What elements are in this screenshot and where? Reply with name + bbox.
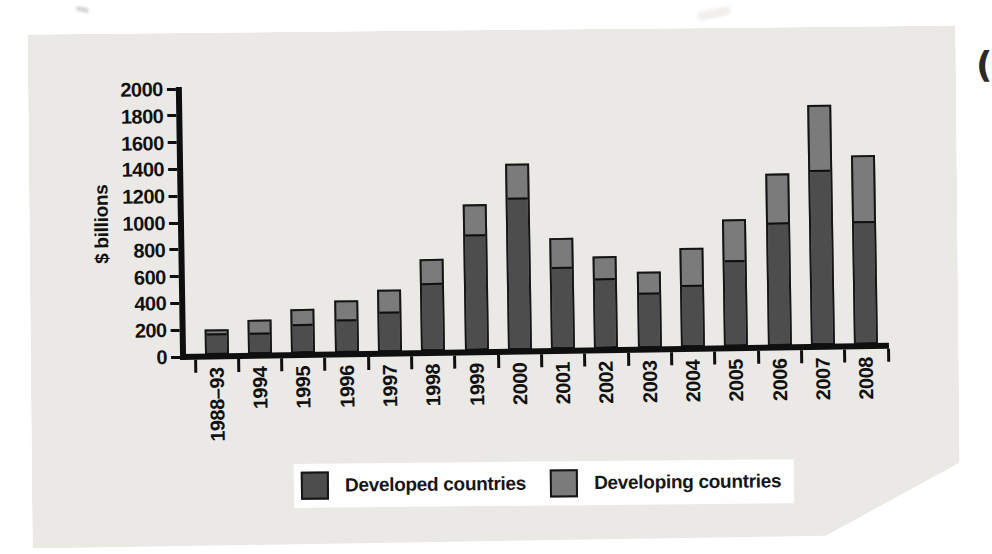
ytick-label-1200: 1200 <box>100 185 164 208</box>
xlabel-text-1999: 1999 <box>466 363 488 406</box>
bar-segment-developed-1996 <box>336 319 356 350</box>
xtick-mark-1 <box>237 359 240 372</box>
ytick-label-1600: 1600 <box>100 132 164 155</box>
legend-swatch-developed <box>301 472 329 500</box>
ytick-mark-1400 <box>168 168 177 171</box>
xtick-mark-8 <box>540 354 543 367</box>
figure-panel: $ billions 20001800160014001200100080060… <box>28 26 961 549</box>
xtick-mark-6 <box>453 356 456 369</box>
bar-1998 <box>420 258 445 351</box>
ytick-mark-1800 <box>167 114 176 117</box>
bar-segment-developed-2007 <box>810 170 833 343</box>
bar-segment-developed-1997 <box>379 311 400 349</box>
bar-segment-developed-2005 <box>725 260 746 345</box>
bar-2003 <box>637 271 662 348</box>
xlabel-text-1994: 1994 <box>250 367 272 410</box>
xlabel-text-1995: 1995 <box>293 366 315 409</box>
xlabel-text-2006: 2006 <box>769 358 791 401</box>
xtick-mark-10 <box>627 353 630 366</box>
bar-2002 <box>593 256 618 348</box>
ytick-label-600: 600 <box>102 266 166 289</box>
xlabel-text-2007: 2007 <box>813 358 835 401</box>
xlabel-text-1998: 1998 <box>423 364 445 407</box>
bar-1988–93 <box>204 329 228 355</box>
xtick-mark-12 <box>713 352 716 365</box>
ytick-mark-1600 <box>168 141 177 144</box>
bar-2000 <box>505 163 532 350</box>
xtick-mark-14 <box>800 350 803 363</box>
bar-1997 <box>377 290 402 352</box>
bar-segment-developed-2008 <box>854 221 876 342</box>
ytick-mark-200 <box>171 329 180 332</box>
xtick-mark-5 <box>410 356 413 369</box>
xtick-mark-9 <box>583 354 586 367</box>
bar-2004 <box>680 248 706 348</box>
xlabel-text-1997: 1997 <box>380 364 402 407</box>
bar-segment-developed-2002 <box>595 278 616 347</box>
xlabel-text-2003: 2003 <box>639 360 661 403</box>
ytick-label-400: 400 <box>102 293 166 316</box>
xlabel-text-2002: 2002 <box>596 361 618 404</box>
xtick-mark-0 <box>194 360 197 373</box>
bar-1995 <box>291 309 316 354</box>
x-axis-labels: 1988–93199419951996199719981999200020012… <box>26 23 954 38</box>
bar-1999 <box>462 204 488 350</box>
page: { "chart_data": { "type": "bar", "stacke… <box>0 0 992 554</box>
ytick-mark-1200 <box>169 195 178 198</box>
bar-segment-developed-2004 <box>682 284 703 345</box>
bar-2006 <box>765 174 792 346</box>
bars-group <box>26 23 954 38</box>
xtick-mark-15 <box>843 349 846 362</box>
y-axis <box>176 87 186 360</box>
bar-segment-developed-2001 <box>552 266 573 347</box>
legend: Developed countries Developing countries <box>294 459 794 508</box>
y-axis-ticks: 2000180016001400120010008006004002000 <box>26 23 954 38</box>
legend-swatch-developing <box>550 469 578 497</box>
bar-2007 <box>807 105 835 345</box>
bar-segment-developed-1995 <box>293 323 313 351</box>
xtick-mark-13 <box>757 351 760 364</box>
legend-label-developing: Developing countries <box>594 470 781 494</box>
bar-segment-developed-2006 <box>768 223 790 344</box>
bar-segment-developed-1988–93 <box>206 333 226 352</box>
ytick-mark-600 <box>170 275 179 278</box>
bar-segment-developed-1999 <box>465 234 487 348</box>
ytick-mark-1000 <box>169 221 178 224</box>
legend-label-developed: Developed countries <box>345 473 526 497</box>
bar-2005 <box>722 219 748 346</box>
bar-segment-developed-1994 <box>250 332 270 352</box>
xtick-mark-11 <box>670 352 673 365</box>
bar-1994 <box>247 319 272 354</box>
ytick-label-1400: 1400 <box>100 159 164 182</box>
xtick-mark-3 <box>324 358 327 371</box>
ytick-mark-800 <box>169 248 178 251</box>
xlabel-text-2005: 2005 <box>726 359 748 402</box>
xlabel-text-2001: 2001 <box>553 362 575 405</box>
xtick-mark-7 <box>497 355 500 368</box>
xtick-mark-16 <box>887 349 890 362</box>
x-axis-ticks <box>26 23 954 38</box>
ytick-mark-2000 <box>167 87 176 90</box>
ytick-label-1000: 1000 <box>101 212 165 235</box>
xlabel-text-1988–93: 1988–93 <box>206 367 228 442</box>
xlabel-text-2000: 2000 <box>510 362 532 405</box>
scan-smudge-icon <box>696 6 731 22</box>
ytick-label-1800: 1800 <box>99 105 163 128</box>
bar-1996 <box>334 301 359 353</box>
ytick-label-200: 200 <box>102 319 166 342</box>
bar-segment-developed-2003 <box>639 292 660 345</box>
bar-segment-developed-1998 <box>422 283 443 349</box>
xlabel-text-2008: 2008 <box>856 357 878 400</box>
ytick-mark-0 <box>171 355 180 358</box>
xlabel-text-1996: 1996 <box>336 365 358 408</box>
xtick-mark-4 <box>367 357 370 370</box>
page-edge-artifact-paren: ( <box>976 44 992 85</box>
bar-2001 <box>549 238 575 349</box>
bar-segment-developed-2000 <box>507 197 529 347</box>
ytick-label-2000: 2000 <box>99 78 163 101</box>
ytick-label-0: 0 <box>103 346 167 369</box>
ytick-label-800: 800 <box>101 239 165 262</box>
scan-smudge-icon <box>76 6 90 14</box>
xlabel-text-2004: 2004 <box>683 360 705 403</box>
xtick-mark-2 <box>280 358 283 371</box>
